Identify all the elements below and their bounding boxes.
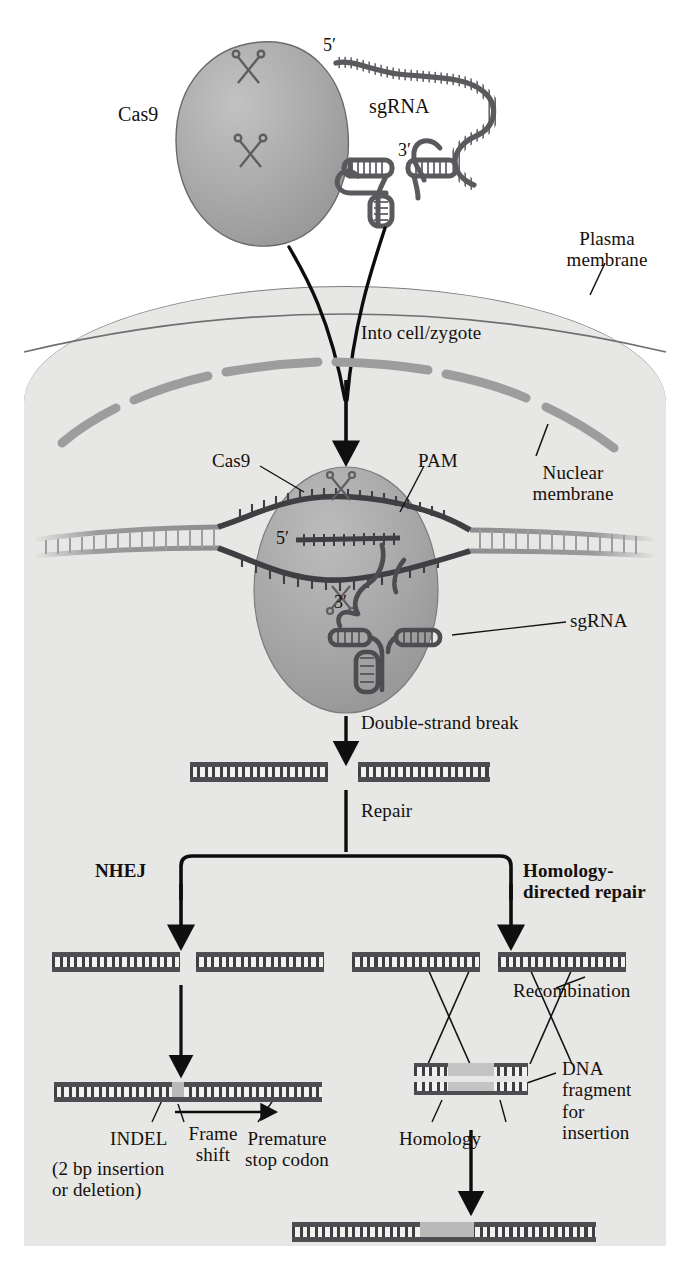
scissors-icon-upper [233, 51, 265, 83]
indel-detail-label: (2 bp insertion or deletion) [52, 1158, 164, 1201]
recombination-label: Recombination [513, 980, 630, 1001]
premature-stop-label: Premature stop codon [245, 1128, 329, 1171]
cas9-top-label: Cas9 [118, 103, 158, 125]
crispr-diagram: Cas9 sgRNA 5′ 3′ Plasma membrane Into ce… [0, 0, 690, 1287]
double-strand-break-label: Double-strand break [361, 712, 519, 733]
sgrna-top-structure [336, 62, 494, 226]
repair-label: Repair [361, 800, 412, 821]
scissors-icon-lower [235, 135, 267, 167]
three-prime-nucleus-label: 3′ [334, 592, 347, 612]
nuclear-membrane-label: Nuclear membrane [533, 462, 614, 505]
five-prime-nucleus-label: 5′ [276, 528, 289, 548]
cas9-nucleus-label: Cas9 [212, 450, 250, 471]
sgrna-nucleus-label: sgRNA [570, 610, 628, 631]
sgrna-top-label: sgRNA [369, 95, 430, 117]
plasma-membrane-label: Plasma membrane [567, 228, 648, 271]
five-prime-top-label: 5′ [323, 35, 336, 55]
dna-fragment-label: DNA fragment for insertion [562, 1058, 631, 1143]
pam-label: PAM [418, 450, 458, 471]
indel-label: INDEL [110, 1128, 167, 1149]
three-prime-top-label: 3′ [398, 140, 411, 160]
cas9-protein-shape [176, 42, 348, 246]
homology-label: Homology [399, 1128, 481, 1149]
frame-shift-label: Frame shift [188, 1123, 237, 1166]
nhej-label: NHEJ [95, 860, 146, 881]
into-cell-label: Into cell/zygote [361, 322, 481, 343]
hdr-label: Homology- directed repair [523, 860, 646, 903]
